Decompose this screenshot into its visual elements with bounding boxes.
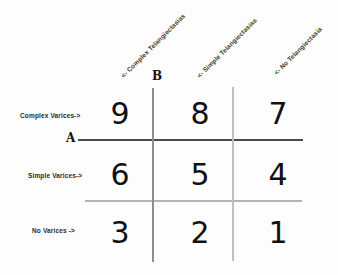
grid-cell-value: 3: [100, 218, 140, 248]
grid-cell-value: 1: [258, 218, 298, 248]
horizontal-axis-line-a: [78, 139, 303, 141]
grid-cell-value: 5: [180, 160, 220, 190]
grid-cell-value: 4: [258, 160, 298, 190]
axis-marker-b: B: [152, 70, 162, 82]
vertical-grid-line-c: [232, 87, 234, 261]
grid-cell-value: 7: [258, 99, 298, 129]
vertical-axis-line-b: [152, 88, 154, 262]
column-label-simple-telangiectasias: <- Simple Telangiectasias: [196, 17, 258, 79]
grid-cell-value: 2: [180, 218, 220, 248]
horizontal-grid-line-b: [85, 200, 302, 202]
grid-cell-value: 8: [180, 99, 220, 129]
grid-cell-value: 6: [100, 160, 140, 190]
row-label-no-varices: No Varices ->: [32, 227, 75, 234]
column-label-no-telangiectasia: <- No Telangiectasia: [273, 25, 324, 76]
grid-cell-value: 9: [100, 99, 140, 129]
classification-grid-diagram: A B <- Complex Telangiectasias <- Simple…: [0, 0, 338, 275]
row-label-complex-varices: Complex Varices->: [20, 112, 81, 119]
row-label-simple-varices: Simple Varices->: [28, 172, 82, 179]
axis-marker-a: A: [66, 132, 75, 144]
